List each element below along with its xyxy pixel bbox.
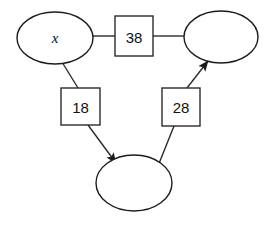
connector-box-right-to-right [187, 61, 208, 88]
node-left[interactable]: x [17, 12, 93, 64]
connector-left-to-box-left [62, 62, 78, 88]
node-bottom[interactable] [96, 155, 172, 211]
box-top-label: 38 [126, 29, 143, 46]
box-right-label: 28 [173, 99, 190, 116]
node-right[interactable] [184, 11, 258, 63]
connector-box-left-to-bottom [88, 125, 116, 163]
box-left-label: 18 [72, 99, 89, 116]
node-right-ellipse[interactable] [184, 11, 258, 63]
diagram-canvas: x 38 18 28 [0, 0, 272, 231]
node-bottom-ellipse[interactable] [96, 155, 172, 211]
connector-bottom-to-box-right [158, 126, 174, 166]
node-left-label: x [51, 30, 59, 46]
box-left[interactable]: 18 [61, 88, 100, 125]
diagram-svg: x 38 18 28 [0, 0, 272, 231]
box-top[interactable]: 38 [115, 16, 153, 56]
box-right[interactable]: 28 [162, 88, 200, 126]
